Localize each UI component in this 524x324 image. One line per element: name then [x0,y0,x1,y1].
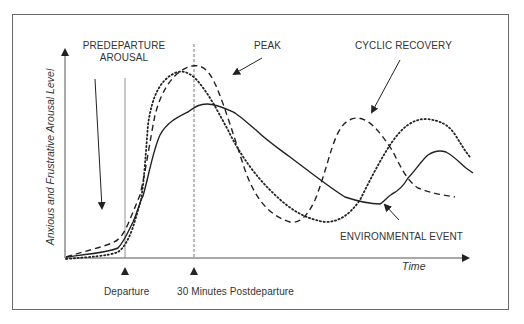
predeparture-label-line2: AROUSAL [82,52,166,64]
x-axis-label: Time [402,260,426,272]
predeparture-label-line1: PREDEPARTURE [82,40,166,52]
cyclic-recovery-label: CYCLIC RECOVERY [355,40,452,51]
cyclic-recovery-arrow [372,60,400,112]
departure-marker-icon [121,267,129,275]
peak-label: PEAK [254,40,281,51]
environmental-event-arrow [385,205,399,220]
predeparture-annotation: PREDEPARTURE AROUSAL [82,40,166,64]
environmental-event-label: ENVIRONMENTAL EVENT [340,231,463,242]
peak-arrow [234,58,262,74]
departure-label: Departure [104,286,149,297]
postdeparture-marker-icon [190,267,198,275]
predeparture-arrow [95,79,102,208]
y-axis-label: Anxious and Frustrative Arousal Level [44,69,56,245]
postdeparture-label: 30 Minutes Postdeparture [177,286,294,297]
dashed-curve [66,66,455,257]
